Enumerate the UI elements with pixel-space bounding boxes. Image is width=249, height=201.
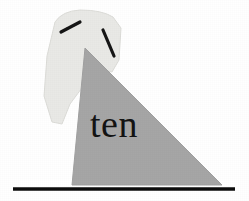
image-canvas: ten: [0, 0, 249, 201]
artwork-illustration: ten: [0, 0, 249, 201]
word-ten-label: ten: [90, 103, 138, 145]
